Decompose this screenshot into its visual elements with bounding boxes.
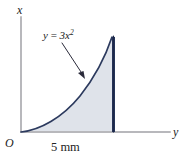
figure-canvas: x y O 5 mm y = 3x2 bbox=[0, 0, 189, 157]
dimension-label-5mm: 5 mm bbox=[51, 140, 80, 154]
curve-equation-label: y = 3x2 bbox=[42, 28, 74, 41]
axis-label-x: x bbox=[16, 3, 23, 17]
equation-coefficient: 3x bbox=[59, 29, 71, 41]
parabolic-area-figure: x y O 5 mm y = 3x2 bbox=[0, 0, 189, 157]
equation-exponent: 2 bbox=[70, 28, 74, 37]
annotation-arrowhead bbox=[78, 71, 85, 79]
equation-operator: = bbox=[48, 29, 60, 41]
origin-label: O bbox=[5, 136, 14, 150]
annotation-leader-line bbox=[62, 43, 83, 75]
axis-label-y: y bbox=[172, 125, 179, 139]
